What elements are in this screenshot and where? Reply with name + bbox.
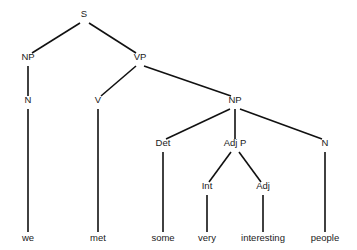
- tree-node-adj: Adj: [256, 180, 270, 191]
- tree-node-layer: SNPVPNVNPDetAdj PNIntAdj: [21, 8, 328, 191]
- tree-node-adjp: Adj P: [224, 137, 247, 148]
- tree-edge-adjp-to-int: [209, 152, 231, 182]
- tree-edge-np2-to-n2: [240, 109, 322, 139]
- tree-node-v: V: [95, 94, 102, 105]
- tree-node-det: Det: [156, 137, 171, 148]
- tree-edge-vp-to-np2: [144, 66, 231, 96]
- tree-terminal-interesting: interesting: [241, 232, 285, 243]
- tree-node-np2: NP: [228, 94, 241, 105]
- syntax-tree-canvas: SNPVPNVNPDetAdj PNIntAdj wemetsomeveryin…: [0, 0, 357, 250]
- tree-terminal-very: very: [198, 232, 216, 243]
- tree-node-np1: NP: [21, 51, 34, 62]
- tree-terminal-we: we: [21, 232, 34, 243]
- syntax-tree-figure: SNPVPNVNPDetAdj PNIntAdj wemetsomeveryin…: [0, 0, 357, 250]
- tree-terminal-layer: wemetsomeveryinterestingpeople: [21, 232, 339, 243]
- tree-terminal-people: people: [311, 232, 340, 243]
- tree-edge-layer: [28, 23, 325, 232]
- tree-edge-vp-to-v: [101, 66, 136, 96]
- tree-edge-s-to-np1: [32, 23, 80, 53]
- tree-node-n2: N: [322, 137, 329, 148]
- tree-terminal-some: some: [151, 232, 174, 243]
- tree-edge-s-to-vp: [89, 23, 136, 53]
- tree-terminal-met: met: [90, 232, 106, 243]
- tree-edge-np2-to-det: [166, 109, 230, 139]
- tree-edge-adjp-to-adj: [239, 152, 261, 182]
- tree-node-int: Int: [202, 180, 213, 191]
- tree-node-n1: N: [25, 94, 32, 105]
- tree-node-s: S: [81, 8, 87, 19]
- tree-node-vp: VP: [134, 51, 147, 62]
